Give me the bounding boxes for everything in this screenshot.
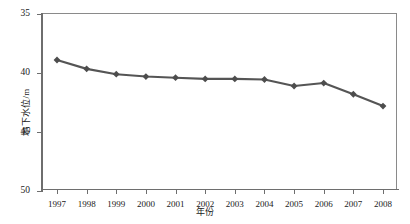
data-point-2002 (202, 76, 209, 83)
series-line-groundwater (57, 60, 383, 106)
data-point-2005 (291, 83, 298, 90)
data-point-2008 (380, 103, 387, 110)
series-markers-groundwater (54, 57, 387, 110)
x-axis-title: 年份 (0, 205, 410, 218)
data-point-2007 (350, 91, 357, 98)
y-tick-label-40: 40 (21, 68, 31, 78)
groundwater-level-line-chart: 地下水位/m 35404550 199719981999200020012002… (0, 0, 410, 224)
y-tick-label-50: 50 (21, 186, 31, 196)
y-tick-label-35: 35 (21, 9, 31, 19)
series-plot (42, 14, 398, 191)
data-point-1998 (83, 65, 90, 72)
data-point-1999 (113, 71, 120, 78)
data-point-2001 (172, 74, 179, 81)
data-point-1997 (54, 57, 61, 64)
y-tick-label-45: 45 (21, 127, 31, 137)
data-point-2006 (320, 80, 327, 87)
data-point-2000 (143, 73, 150, 80)
data-point-2003 (231, 76, 238, 83)
plot-area: 35404550 1997199819992000200120022003200… (41, 13, 397, 190)
data-point-2004 (261, 76, 268, 83)
y-tick-50: 50 (37, 191, 42, 192)
